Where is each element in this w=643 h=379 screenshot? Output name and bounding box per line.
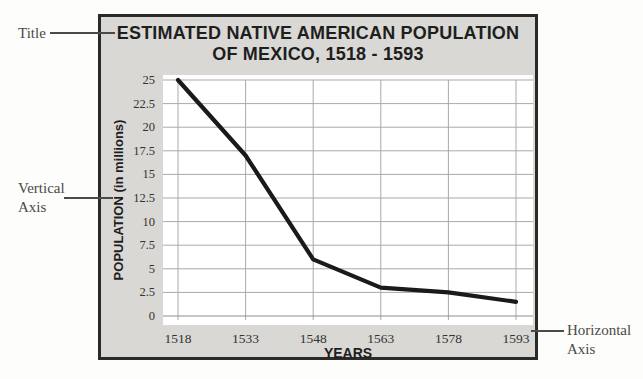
y-tick-label: 17.5 [109,143,155,159]
y-tick-label: 25 [109,72,155,88]
chart-title-line1: ESTIMATED NATIVE AMERICAN POPULATION [101,23,535,44]
chart-box: ESTIMATED NATIVE AMERICAN POPULATION OF … [98,14,538,360]
callout-horizontal-axis-line2: Axis [567,340,631,359]
vertical-axis-leader-line [64,197,113,199]
page: Title Vertical Axis Horizontal Axis ESTI… [0,0,643,379]
y-tick-label: 15 [109,166,155,182]
plot-area [163,75,533,325]
callout-vertical-axis-line2: Axis [18,198,65,217]
y-tick-label: 20 [109,119,155,135]
y-tick-label: 22.5 [109,96,155,112]
x-axis-title: YEARS [163,345,533,361]
callout-horizontal-axis-label: Horizontal Axis [567,321,631,359]
title-leader-line [50,32,115,34]
y-tick-label: 12.5 [109,190,155,206]
chart-title: ESTIMATED NATIVE AMERICAN POPULATION OF … [101,23,535,65]
chart-title-line2: OF MEXICO, 1518 - 1593 [101,44,535,65]
callout-title-label: Title [18,24,46,43]
y-tick-label: 2.5 [109,284,155,300]
y-tick-label: 0 [109,308,155,324]
callout-horizontal-axis-line1: Horizontal [567,321,631,340]
y-tick-label: 10 [109,214,155,230]
y-tick-label: 7.5 [109,237,155,253]
horizontal-axis-leader-line [531,330,564,332]
plot-svg [163,75,533,325]
callout-vertical-axis-label: Vertical Axis [18,179,65,217]
y-tick-label: 5 [109,261,155,277]
callout-vertical-axis-line1: Vertical [18,179,65,198]
